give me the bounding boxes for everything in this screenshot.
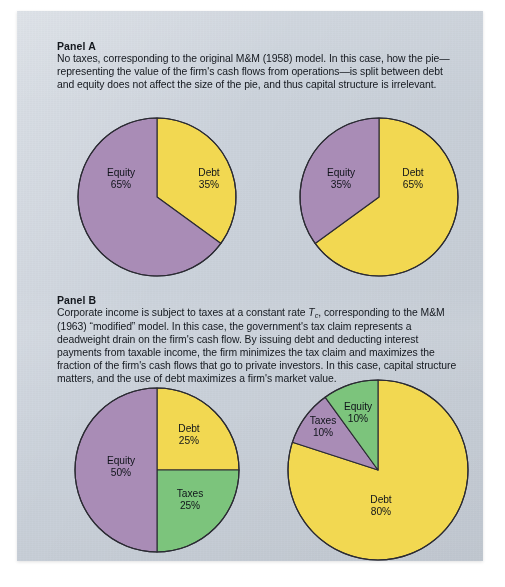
pie-chart-panel-b-right: Debt80%Equity10%Taxes10% <box>283 375 473 565</box>
panel-b-text-part1: Corporate income is subject to taxes at … <box>57 307 308 318</box>
pie-slice-equity <box>75 388 157 552</box>
panel-b-text-part2: , corresponding to the M&M (1963) “modif… <box>57 307 456 384</box>
pie-svg <box>73 113 241 281</box>
tax-rate-symbol: T <box>308 307 314 318</box>
pie-chart-panel-b-left: Debt25%Taxes25%Equity50% <box>70 383 244 557</box>
scanned-textbook-page: Panel A No taxes, corresponding to the o… <box>17 11 483 561</box>
pie-svg <box>283 375 473 565</box>
pie-slice-taxes <box>157 470 239 552</box>
pie-slice-debt <box>157 388 239 470</box>
pie-chart-panel-a-right: Debt65%Equity35% <box>295 113 463 281</box>
panel-a-title: Panel A <box>57 40 96 52</box>
panel-b-description: Corporate income is subject to taxes at … <box>57 306 461 386</box>
panel-b-title: Panel B <box>57 294 96 306</box>
pie-svg <box>70 383 244 557</box>
tax-rate-subscript: c <box>315 311 319 320</box>
pie-svg <box>295 113 463 281</box>
pie-chart-panel-a-left: Debt35%Equity65% <box>73 113 241 281</box>
panel-a-description: No taxes, corresponding to the original … <box>57 52 461 91</box>
